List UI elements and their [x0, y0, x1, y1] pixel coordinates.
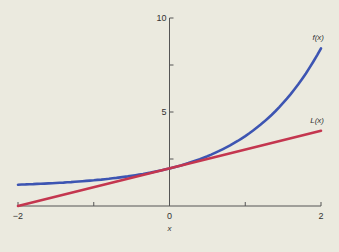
y-tick-label: 10: [156, 13, 166, 23]
x-tick-label: 0: [167, 211, 172, 221]
labels-group: f(x)L(x): [310, 33, 324, 125]
series-label: L(x): [310, 116, 324, 125]
x-tick-label: −2: [13, 211, 23, 221]
series-label: f(x): [312, 33, 324, 42]
chart: −202510x f(x)L(x): [0, 0, 339, 252]
y-tick-label: 5: [161, 107, 166, 117]
axes: −202510x: [13, 13, 324, 233]
x-tick-label: 2: [318, 211, 323, 221]
x-axis-title: x: [167, 224, 173, 233]
